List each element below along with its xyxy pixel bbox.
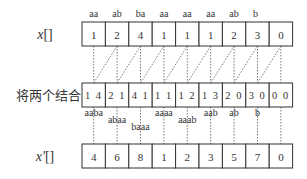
x-suffix-label: aa xyxy=(89,8,98,19)
x-prime-cell: 6 xyxy=(105,144,128,168)
combined-cell: 1 4 xyxy=(82,83,105,107)
combined-cell-value: 1 2 xyxy=(178,90,196,101)
combined-cell: 1 1 xyxy=(152,83,175,107)
combined-cell: 4 1 xyxy=(129,83,152,107)
combined-cell: 1 2 xyxy=(176,83,199,107)
x-suffix-label: b xyxy=(253,8,258,19)
x-cell-value: 1 xyxy=(91,29,97,41)
combined-cell-value: 2 0 xyxy=(225,90,243,101)
row-x: 124111230 xyxy=(82,22,293,46)
combined-cell: 2 1 xyxy=(105,83,128,107)
combined-suffix-label: aaab xyxy=(178,114,196,125)
x-cell-value: 1 xyxy=(185,29,191,41)
combined-cell-value: 1 1 xyxy=(155,90,173,101)
x-prime-cell: 3 xyxy=(199,144,222,168)
x-suffix-label: aa xyxy=(183,8,192,19)
combined-suffix-label: abaa xyxy=(108,114,127,125)
x-prime-cell-value: 4 xyxy=(91,151,97,163)
combined-suffix-label: ab xyxy=(229,107,238,118)
x-prime-cell: 1 xyxy=(152,144,175,168)
x-cell: 1 xyxy=(82,22,105,46)
x-prime-cell-value: 5 xyxy=(231,151,237,163)
x-cell: 1 xyxy=(152,22,175,46)
combined-cell: 0 0 xyxy=(269,83,292,107)
x-suffix-label: ab xyxy=(112,8,121,19)
x-cell-value: 3 xyxy=(255,29,261,41)
row-combined: 1 42 14 11 11 21 32 03 00 0 xyxy=(82,83,293,107)
x-cell-value: 4 xyxy=(138,29,144,41)
x-suffix-label: aa xyxy=(206,8,215,19)
diagonal-connector xyxy=(94,46,117,83)
x-prime-cell-value: 3 xyxy=(208,151,214,163)
x-suffix-label: ab xyxy=(229,8,238,19)
x-cell-value: 2 xyxy=(114,29,120,41)
x-cell-value: 0 xyxy=(278,29,284,41)
x-prime-cell-value: 8 xyxy=(138,151,144,163)
combined-cell-value: 0 0 xyxy=(272,90,290,101)
diagonal-connector xyxy=(141,46,164,83)
x-prime-cell: 0 xyxy=(269,144,292,168)
combined-cell: 3 0 xyxy=(246,83,269,107)
x-prime-cell: 5 xyxy=(222,144,245,168)
x-prime-cell-value: 7 xyxy=(255,151,261,163)
combined-suffix-label: aab xyxy=(204,107,218,118)
x-cell-value: 1 xyxy=(208,29,214,41)
combined-suffix-label: aaba xyxy=(85,107,104,118)
diagonal-connector xyxy=(164,46,187,83)
x-prime-cell: 8 xyxy=(129,144,152,168)
x-prime-cell: 4 xyxy=(82,144,105,168)
row-label-x-prime: x'[] xyxy=(35,149,55,164)
diagonal-connector xyxy=(187,46,210,83)
combined-cell-value: 1 3 xyxy=(202,90,220,101)
x-prime-cell-value: 6 xyxy=(114,151,120,163)
diagonal-connector xyxy=(211,46,234,83)
combined-suffix-label: b xyxy=(255,107,260,118)
row-label-x: x[] xyxy=(36,27,53,42)
row-label-combined: 将两个结合 xyxy=(16,88,81,103)
x-cell: 3 xyxy=(246,22,269,46)
x-prime-cell-value: 1 xyxy=(161,151,167,163)
suffix-doubling-diagram: 124111230 1 42 14 11 11 21 32 03 00 0 46… xyxy=(0,0,307,179)
combined-cell-value: 3 0 xyxy=(249,90,267,101)
row-x-prime: 468123570 xyxy=(82,144,293,168)
x-cell: 1 xyxy=(199,22,222,46)
x-cell: 2 xyxy=(105,22,128,46)
x-cell: 1 xyxy=(176,22,199,46)
combined-suffix-label: aaaa xyxy=(155,107,173,118)
x-cell: 2 xyxy=(222,22,245,46)
x-cell: 0 xyxy=(269,22,292,46)
x-cell: 4 xyxy=(129,22,152,46)
x-suffix-label: aa xyxy=(159,8,168,19)
x-cell-value: 1 xyxy=(161,29,167,41)
combined-suffix-labels: aabaabaabaaaaaaaaaabaababb xyxy=(83,107,260,132)
x-prime-cell: 2 xyxy=(176,144,199,168)
combined-cell-value: 4 1 xyxy=(132,90,150,101)
combined-suffix-label: baaa xyxy=(131,121,150,132)
x-cell-value: 2 xyxy=(231,29,237,41)
x-prime-cell-value: 0 xyxy=(278,151,284,163)
diagonal-connector xyxy=(234,46,257,83)
x-prime-cell-value: 2 xyxy=(185,151,191,163)
combined-cell: 2 0 xyxy=(222,83,245,107)
x-suffix-label: ba xyxy=(136,8,146,19)
combined-cell-value: 1 4 xyxy=(85,90,103,101)
diagonal-connector xyxy=(117,46,140,83)
x-prime-cell: 7 xyxy=(246,144,269,168)
diagonal-connector xyxy=(258,46,281,83)
combined-cell-value: 2 1 xyxy=(108,90,126,101)
combined-cell: 1 3 xyxy=(199,83,222,107)
top-suffix-labels: aaabbaaaaaaaabb xyxy=(89,8,258,19)
